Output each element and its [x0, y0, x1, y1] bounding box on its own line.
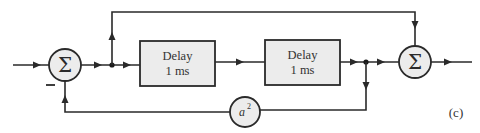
gain-exponent: 2: [247, 102, 251, 111]
summer-1: Σ: [49, 49, 81, 81]
summer-1-sigma: Σ: [58, 53, 72, 77]
arrow-down-icon: [363, 82, 370, 90]
summer-2: Σ: [399, 46, 431, 78]
summer-2-sigma: Σ: [408, 50, 422, 74]
gain-block: a 2: [230, 97, 260, 127]
delay-block-1-label: Delay: [163, 49, 194, 63]
delay-block-1-value: 1 ms: [166, 64, 190, 78]
arrow-down-icon: [412, 21, 419, 29]
gain-base: a: [239, 105, 245, 119]
delay-block-2-label: Delay: [288, 48, 319, 62]
arrow-icon: [94, 62, 102, 69]
arrow-icon: [123, 62, 131, 69]
block-diagram: Σ Delay 1 ms Delay 1 ms a 2 Σ: [0, 0, 480, 133]
arrow-up-icon: [62, 95, 69, 103]
figure-label: (c): [449, 105, 463, 120]
gain-circle: [230, 97, 260, 127]
input-arrow-icon: [33, 62, 41, 69]
delay-block-2: Delay 1 ms: [265, 40, 340, 85]
arrow-up-icon: [109, 32, 116, 40]
arrow-icon: [350, 59, 358, 66]
arrow-icon: [236, 59, 244, 66]
arrow-icon: [377, 59, 385, 66]
delay-block-1: Delay 1 ms: [140, 41, 215, 86]
delay-block-2-value: 1 ms: [291, 63, 315, 77]
output-arrow-icon: [444, 59, 452, 66]
